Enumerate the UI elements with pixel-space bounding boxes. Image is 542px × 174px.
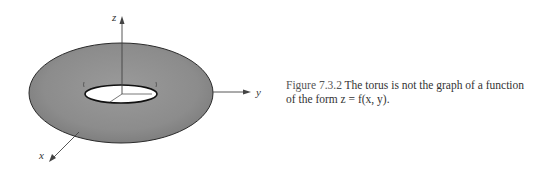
figure-number: Figure 7.3.2 [286,79,342,91]
figure-caption: Figure 7.3.2 The torus is not the graph … [286,78,536,106]
x-axis-label: x [38,149,44,161]
torus-diagram: z y x [0,0,271,174]
z-axis-label: z [111,11,117,23]
x-axis [52,132,79,159]
y-axis-label: y [255,86,261,98]
torus-figure: z y x [0,0,271,174]
